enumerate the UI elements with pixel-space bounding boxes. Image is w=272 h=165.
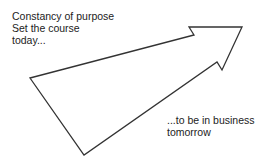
caption-line-business: ...to be in business: [167, 114, 255, 126]
caption-line-tomorrow: tomorrow: [167, 126, 255, 138]
bottom-caption: ...to be in business tomorrow: [167, 114, 255, 138]
arrow-diagram: [0, 0, 272, 165]
